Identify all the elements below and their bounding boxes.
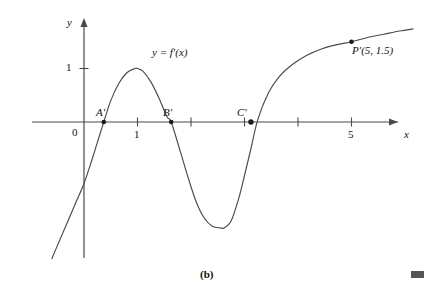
x-axis xyxy=(32,118,398,125)
figure-caption: (b) xyxy=(200,268,213,280)
x-tick-label-1: 1 xyxy=(134,129,140,140)
y-tick-label-1: 1 xyxy=(66,62,72,73)
curve-equation-label: y = f′(x) xyxy=(152,47,187,58)
point-p-prime-label: P′(5, 1.5) xyxy=(352,45,393,56)
point-b-prime-label: B′ xyxy=(163,107,172,118)
point-a-prime-dot xyxy=(102,120,107,125)
origin-label: 0 xyxy=(72,127,78,138)
figure-graph-b: y x 0 1 1 5 y = f′(x) A′ B′ C′ P′(5, 1.5… xyxy=(0,0,428,286)
point-b-prime-dot xyxy=(169,120,174,125)
x-axis-arrowhead xyxy=(389,118,398,125)
plot-canvas xyxy=(0,0,428,286)
corner-mark xyxy=(411,271,424,278)
point-a-prime-label: A′ xyxy=(96,107,105,118)
marked-points xyxy=(102,39,354,124)
y-axis-label: y xyxy=(67,17,72,28)
x-axis-label: x xyxy=(404,129,409,140)
y-axis xyxy=(80,18,87,258)
y-axis-arrowhead xyxy=(80,18,87,27)
point-c-prime-label: C′ xyxy=(237,107,247,118)
x-tick-label-5: 5 xyxy=(348,129,354,140)
derivative-curve xyxy=(52,29,413,259)
point-c-prime-dot xyxy=(248,119,253,124)
